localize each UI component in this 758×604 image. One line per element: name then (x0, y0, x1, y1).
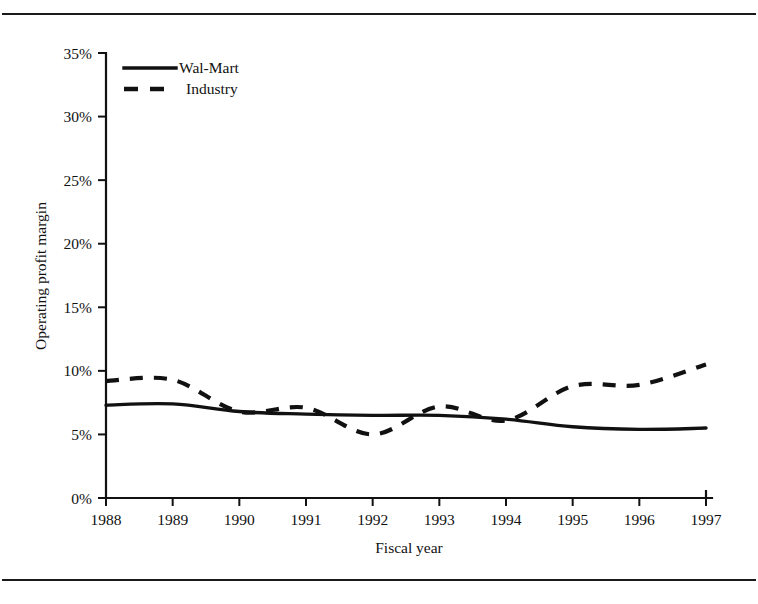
y-axis-tick-label: 5% (71, 426, 92, 443)
y-axis-tick-label: 10% (64, 362, 93, 379)
x-axis-tick-group (106, 498, 706, 506)
y-axis-tick-label: 20% (64, 235, 93, 252)
x-axis-tick-label: 1994 (491, 511, 522, 528)
series-line-industry (106, 365, 706, 435)
x-axis-tick-label: 1988 (91, 511, 122, 528)
x-axis-tick-label: 1991 (291, 511, 322, 528)
x-axis-tick-label: 1990 (224, 511, 255, 528)
series-line-wal-mart (106, 404, 706, 430)
y-axis-tick-label-group: 0%5%10%15%20%25%30%35% (64, 45, 93, 507)
x-axis-tick-label: 1993 (424, 511, 455, 528)
x-axis-tick-label: 1995 (557, 511, 588, 528)
y-axis-title: Operating profit margin (32, 202, 49, 350)
x-axis-tick-label: 1997 (691, 511, 722, 528)
figure-container: 0%5%10%15%20%25%30%35% 19881989199019911… (0, 0, 758, 604)
chart-legend: Wal-Mart Industry (124, 59, 240, 97)
line-chart: 0%5%10%15%20%25%30%35% 19881989199019911… (0, 0, 758, 604)
y-axis-tick-label: 15% (64, 299, 93, 316)
x-axis-tick-label: 1992 (357, 511, 388, 528)
y-axis-tick-group (98, 53, 106, 498)
legend-label-industry: Industry (186, 80, 238, 97)
y-axis-tick-label: 25% (64, 172, 93, 189)
x-axis-tick-label: 1996 (624, 511, 655, 528)
x-axis-title: Fiscal year (375, 539, 443, 556)
y-axis-tick-label: 35% (64, 45, 93, 62)
y-axis-tick-label: 0% (71, 490, 92, 507)
legend-label-wal-mart: Wal-Mart (179, 59, 240, 76)
x-axis-tick-label: 1989 (157, 511, 188, 528)
x-axis-tick-label-group: 1988198919901991199219931994199519961997 (91, 511, 722, 528)
y-axis-tick-label: 30% (64, 108, 93, 125)
